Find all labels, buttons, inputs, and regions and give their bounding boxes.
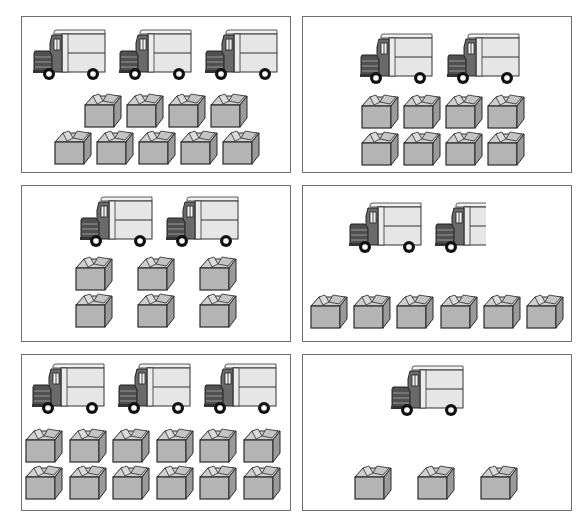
truck-icon [348,202,422,254]
box-icon [402,131,442,167]
box-icon [198,293,238,329]
box-icon [167,93,207,129]
box-icon [24,465,64,501]
box-icon [479,465,519,501]
box-icon [74,256,114,292]
box-icon [486,131,526,167]
box-icon [360,131,400,167]
panel-5 [21,354,291,511]
truck-icon [204,29,278,81]
box-icon [155,428,195,464]
box-icon [444,131,484,167]
truck-icon [203,363,277,415]
truck-icon [79,196,153,248]
box-icon [136,293,176,329]
panel-4 [302,185,572,342]
box-icon [416,465,456,501]
panel-3 [21,185,291,342]
box-icon [179,130,219,166]
box-icon [482,294,522,330]
box-icon [402,94,442,130]
box-icon [486,94,526,130]
box-icon [309,294,349,330]
box-icon [68,465,108,501]
box-icon [111,465,151,501]
panel-6 [302,354,572,511]
truck-icon [118,29,192,81]
box-icon [353,465,393,501]
box-icon [360,94,400,130]
box-icon [136,256,176,292]
box-icon [83,93,123,129]
box-icon [74,293,114,329]
truck-icon [32,29,106,81]
box-icon [395,294,435,330]
box-icon [24,428,64,464]
box-icon [111,428,151,464]
box-icon [198,256,238,292]
box-icon [68,428,108,464]
box-icon [125,93,165,129]
truck-icon [117,363,191,415]
box-icon [525,294,565,330]
half-truck-icon [434,202,486,254]
truck-icon [359,33,433,85]
truck-icon [31,363,105,415]
box-icon [95,130,135,166]
box-icon [242,428,282,464]
truck-icon [446,33,520,85]
box-icon [53,130,93,166]
box-icon [352,294,392,330]
box-icon [221,130,261,166]
box-icon [137,130,177,166]
panel-2 [302,16,572,173]
box-icon [198,465,238,501]
box-icon [242,465,282,501]
panel-1 [21,16,291,173]
truck-icon [390,365,464,417]
box-icon [444,94,484,130]
box-icon [155,465,195,501]
truck-icon [165,196,239,248]
box-icon [198,428,238,464]
box-icon [439,294,479,330]
box-icon [209,93,249,129]
